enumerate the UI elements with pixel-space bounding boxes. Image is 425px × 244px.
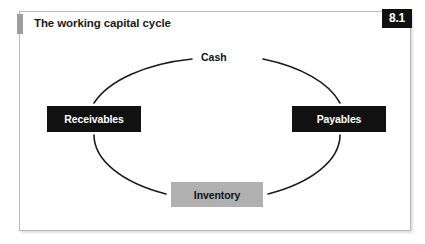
page-title: The working capital cycle xyxy=(34,17,171,29)
node-receivables: Receivables xyxy=(47,106,141,132)
header-accent-bar xyxy=(17,14,23,34)
node-cash: Cash xyxy=(196,51,232,63)
figure-header: The working capital cycle 8.1 xyxy=(20,12,410,39)
figure-card: The working capital cycle 8.1 Cash Recei… xyxy=(19,11,411,231)
arc-receivables-to-cash xyxy=(94,59,192,103)
node-payables: Payables xyxy=(292,106,386,132)
arc-inventory-to-receivables xyxy=(94,135,166,194)
arc-cash-to-payables xyxy=(263,59,340,103)
node-inventory: Inventory xyxy=(171,182,263,207)
arc-payables-to-inventory xyxy=(268,135,340,194)
figure-number-badge: 8.1 xyxy=(382,9,412,28)
working-capital-cycle-diagram: Cash Receivables Payables Inventory xyxy=(20,39,410,232)
